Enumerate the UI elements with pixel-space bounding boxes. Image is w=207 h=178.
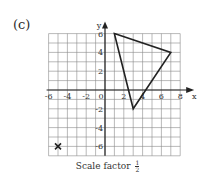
y-tick-label: 4	[98, 48, 103, 57]
x-tick-label: 2	[121, 92, 126, 101]
x-tick-label: 8	[178, 92, 183, 101]
x-axis-label: x	[192, 92, 197, 101]
y-tick-label: -4	[95, 124, 103, 133]
fraction-denominator: 2	[135, 167, 139, 173]
x-tick-label: 0	[98, 92, 103, 101]
y-axis-label: y	[96, 21, 102, 30]
x-tick-label: -4	[64, 92, 72, 101]
y-axis-arrow-icon	[102, 22, 108, 29]
x-tick-label: -6	[45, 92, 53, 101]
y-tick-label: -6	[95, 142, 103, 151]
coordinate-grid: -6-4-202468642-2-4-6xy	[0, 0, 207, 178]
y-tick-label: 6	[98, 30, 103, 39]
x-tick-label: -2	[82, 92, 90, 101]
caption-text: Scale factor	[76, 161, 131, 171]
y-tick-label: 2	[98, 67, 103, 76]
scale-fraction: 1 2	[135, 160, 139, 173]
y-tick-label: -2	[95, 105, 103, 114]
caption: Scale factor 1 2	[0, 160, 207, 173]
x-tick-label: 6	[159, 92, 164, 101]
